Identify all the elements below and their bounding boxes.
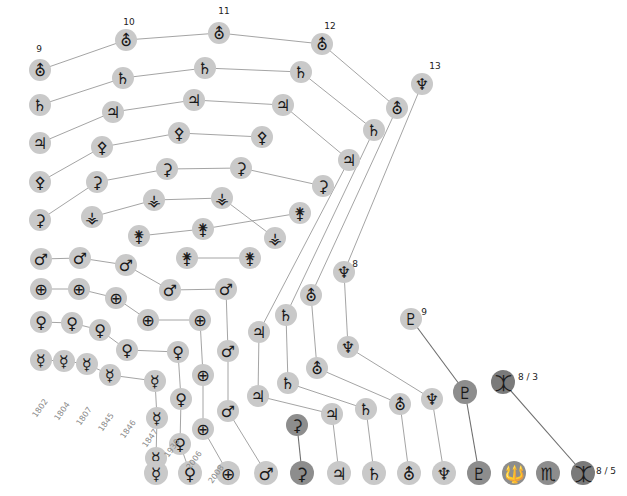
body-node-vesta-symbol[interactable]: ⚶ [211,187,233,209]
body-node-juno-symbol[interactable]: ⚵ [239,247,261,269]
body-node-jupiter-symbol[interactable]: ♃ [321,403,343,425]
body-node-neptune-symbol[interactable]: ♆ [411,73,433,95]
body-node-juno-symbol[interactable]: ⚵ [128,225,150,247]
body-node-saturn-symbol[interactable]: ♄ [112,67,134,89]
body-node-earth-symbol[interactable]: ⊕ [192,418,214,440]
body-node-mars-symbol[interactable]: ♂ [69,247,91,269]
body-node-makemake-symbol[interactable]: ♏ [536,461,560,485]
body-node-mars-symbol[interactable]: ♂ [30,248,52,270]
body-node-vesta-symbol[interactable]: ⚶ [264,227,286,249]
body-node-jupiter-symbol[interactable]: ♃ [338,149,360,171]
body-node-saturn-symbol[interactable]: ♄ [362,461,386,485]
vesta-symbol: ⚶ [215,189,229,208]
body-node-pluto-symbol[interactable]: ♇ [453,380,477,404]
body-node-jupiter-symbol[interactable]: ♃ [272,94,294,116]
uranus-symbol: ⛢ [394,395,406,414]
body-node-neptune-symbol[interactable]: ♆ [337,336,359,358]
graph-edge [465,392,479,473]
body-node-ceres-symbol[interactable]: ⚳ [286,414,308,436]
juno-symbol: ⚵ [294,204,306,223]
saturn-symbol: ♄ [367,121,381,140]
body-node-earth-symbol[interactable]: ⊕ [30,278,52,300]
body-node-mars-symbol[interactable]: ♂ [217,400,239,422]
body-node-eris-symbol[interactable]: ⯰ [571,461,595,485]
pluto-symbol: ♇ [471,464,486,484]
body-node-neptune-symbol[interactable]: ♆ [432,461,456,485]
body-node-saturn-symbol[interactable]: ♄ [363,119,385,141]
body-node-juno-symbol[interactable]: ⚵ [192,218,214,240]
body-node-ceres-symbol[interactable]: ⚳ [230,157,252,179]
ceres-symbol: ⚳ [91,173,103,192]
body-node-jupiter-symbol[interactable]: ♃ [247,385,269,407]
body-node-jupiter-symbol[interactable]: ♃ [327,461,351,485]
body-node-mercury-symbol[interactable]: ☿ [76,353,98,375]
body-node-eris-symbol[interactable]: ⯰ [491,370,515,394]
body-node-venus-symbol[interactable]: ♀ [30,311,52,333]
body-node-pallas-symbol[interactable]: ⚴ [29,171,51,193]
body-node-pallas-symbol[interactable]: ⚴ [91,136,113,158]
body-node-uranus-symbol[interactable]: ⛢ [208,22,230,44]
body-node-pallas-symbol[interactable]: ⚴ [168,122,190,144]
body-node-jupiter-symbol[interactable]: ♃ [102,101,124,123]
body-node-mercury-symbol[interactable]: ☿ [144,370,166,392]
body-node-earth-symbol[interactable]: ⊕ [189,309,211,331]
body-node-ceres-symbol[interactable]: ⚳ [290,461,314,485]
body-node-jupiter-symbol[interactable]: ♃ [248,321,270,343]
body-node-vesta-symbol[interactable]: ⚶ [81,206,103,228]
body-node-venus-symbol[interactable]: ♀ [89,319,111,341]
body-node-juno-symbol[interactable]: ⚵ [176,247,198,269]
body-node-mars-symbol[interactable]: ♂ [115,254,137,276]
body-node-uranus-symbol[interactable]: ⛢ [389,393,411,415]
body-node-uranus-symbol[interactable]: ⛢ [115,29,137,51]
body-node-ceres-symbol[interactable]: ⚳ [156,158,178,180]
body-node-saturn-symbol[interactable]: ♄ [194,57,216,79]
body-node-saturn-symbol[interactable]: ♄ [290,61,312,83]
saturn-symbol: ♄ [366,464,381,484]
body-node-pallas-symbol[interactable]: ⚴ [251,126,273,148]
body-node-neptune-symbol[interactable]: ♆ [421,388,443,410]
body-node-saturn-symbol[interactable]: ♄ [277,372,299,394]
edge-layer [40,33,583,473]
body-node-uranus-symbol[interactable]: ⛢ [306,357,328,379]
graph-edge [317,368,400,404]
body-node-mercury-symbol[interactable]: ☿ [99,364,121,386]
body-node-earth-symbol[interactable]: ⊕ [68,278,90,300]
planet-count-label: 9 [421,307,427,317]
body-node-earth-symbol[interactable]: ⊕ [137,309,159,331]
body-node-mars-symbol[interactable]: ♂ [217,340,239,362]
body-node-venus-symbol[interactable]: ♀ [61,312,83,334]
body-node-ceres-symbol[interactable]: ⚳ [86,171,108,193]
body-node-mercury-symbol[interactable]: ☿ [53,350,75,372]
body-node-ceres-symbol[interactable]: ⚳ [312,175,334,197]
body-node-pluto-symbol[interactable]: ♇ [467,461,491,485]
body-node-vesta-symbol[interactable]: ⚶ [143,189,165,211]
body-node-mars-symbol[interactable]: ♂ [254,461,278,485]
body-node-saturn-symbol[interactable]: ♄ [29,94,51,116]
body-node-jupiter-symbol[interactable]: ♃ [183,89,205,111]
body-node-earth-symbol[interactable]: ⊕ [105,287,127,309]
graph-edge [219,33,322,44]
body-node-mars-symbol[interactable]: ♂ [215,278,237,300]
body-node-earth-symbol[interactable]: ⊕ [192,364,214,386]
body-node-uranus-symbol[interactable]: ⛢ [386,97,408,119]
body-node-saturn-symbol[interactable]: ♄ [275,304,297,326]
body-node-uranus-symbol[interactable]: ⛢ [311,33,333,55]
body-node-mercury-symbol[interactable]: ☿ [30,349,52,371]
body-node-juno-symbol[interactable]: ⚵ [289,202,311,224]
body-node-mercury-symbol[interactable]: ☿ [146,407,168,429]
body-node-venus-symbol[interactable]: ♀ [170,388,192,410]
body-node-haumea-symbol[interactable]: 🔱 [502,461,526,485]
body-node-saturn-symbol[interactable]: ♄ [355,398,377,420]
body-node-uranus-symbol[interactable]: ⛢ [300,284,322,306]
body-node-pluto-symbol[interactable]: ♇ [400,308,422,330]
body-node-jupiter-symbol[interactable]: ♃ [29,132,51,154]
body-node-ceres-symbol[interactable]: ⚳ [29,209,51,231]
body-node-uranus-symbol[interactable]: ⛢ [29,59,51,81]
body-node-mars-symbol[interactable]: ♂ [159,279,181,301]
body-node-mercury-symbol[interactable]: ☿ [144,461,168,485]
body-node-uranus-symbol[interactable]: ⛢ [397,461,421,485]
saturn-symbol: ♄ [281,374,295,393]
body-node-venus-symbol[interactable]: ♀ [116,339,138,361]
graph-edge [301,72,374,130]
body-node-venus-symbol[interactable]: ♀ [167,341,189,363]
